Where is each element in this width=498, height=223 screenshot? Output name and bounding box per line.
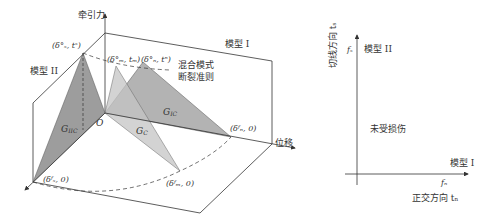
tangential-symbol: fₛ xyxy=(346,45,353,54)
left-3d-diagram: 牵引力 位移 模型 I 模型 II 混合模式 断裂准则 O (δ°ₛ, tˢ) … xyxy=(25,9,295,213)
displacement-label: 位移 xyxy=(275,137,293,148)
mixed-criterion-label-1: 混合模式 xyxy=(178,59,214,70)
mode2-final-label: (δᶠₛ, 0) xyxy=(43,175,69,184)
mixed-criterion-label-2: 断裂准则 xyxy=(178,71,214,82)
origin-label: O xyxy=(96,118,104,128)
right-2d-diagram: 切线方向 tₛ fₛ 模型 II 未受损伤 模型 I fₙ 正交方向 tₙ xyxy=(327,22,475,203)
mode1-final-label: (δᶠₙ, 0) xyxy=(230,124,256,133)
cohesive-zone-diagram: 牵引力 位移 模型 I 模型 II 混合模式 断裂准则 O (δ°ₛ, tˢ) … xyxy=(0,0,498,223)
right-mode2-label: 模型 II xyxy=(364,44,392,54)
mode2-plane-label: 模型 II xyxy=(30,66,58,76)
undamaged-region-label: 未受损伤 xyxy=(370,123,406,134)
mode2-peak-label: (δ°ₛ, tˢ) xyxy=(52,41,81,50)
mode1-peak-label: (δ°ₙ, tⁿ) xyxy=(141,55,171,64)
mixed-peak-label: (δ°ₘ, tₘ) xyxy=(107,55,140,64)
base-plane xyxy=(33,144,272,213)
normal-axis-label: 正交方向 tₙ xyxy=(412,192,458,203)
right-mode1-label: 模型 I xyxy=(450,158,475,168)
tangential-axis-label: 切线方向 tₛ xyxy=(327,22,338,68)
mode1-plane-label: 模型 I xyxy=(225,39,250,49)
normal-symbol: fₙ xyxy=(440,178,447,187)
traction-label: 牵引力 xyxy=(78,9,105,20)
mixed-final-label: (δᶠₘ, 0) xyxy=(166,179,194,188)
